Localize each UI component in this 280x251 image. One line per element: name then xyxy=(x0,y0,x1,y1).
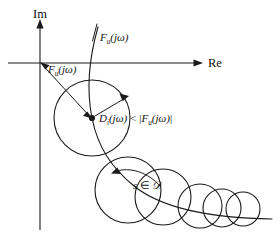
radius-label-bound-argument: (jω) xyxy=(152,112,170,125)
imaginary-axis-label: Im xyxy=(33,7,47,21)
domain-label-member-symbol: ∈ xyxy=(140,179,150,191)
radius-label-base: D xyxy=(98,112,107,124)
radius-bound-label: Di(jω)<|Fu(jω)| xyxy=(98,112,172,127)
radius-label-argument: (jω) xyxy=(109,112,127,125)
uncertainty-disc-2 xyxy=(95,157,161,223)
curve-label: Fu(jω) xyxy=(99,31,129,46)
radius-label-bound-close: | xyxy=(170,112,172,124)
vector-label-argument: (jω) xyxy=(58,63,76,76)
radius-label-relation: < xyxy=(130,112,136,124)
uncertainty-disc-6 xyxy=(226,192,260,226)
real-axis-arrowhead xyxy=(194,59,204,66)
domain-label-variable: s xyxy=(133,179,137,191)
domain-label-set: 𝒟 xyxy=(152,179,163,191)
vector-label: Fu(jω) xyxy=(47,63,77,78)
nyquist-uncertainty-figure: Im Re Fu(jω) Fu(jω) Di xyxy=(0,0,280,251)
axes-group xyxy=(8,19,203,230)
curve-label-argument: (jω) xyxy=(110,31,128,44)
real-axis-label: Re xyxy=(208,56,222,70)
uncertainty-disc-3 xyxy=(135,169,191,225)
